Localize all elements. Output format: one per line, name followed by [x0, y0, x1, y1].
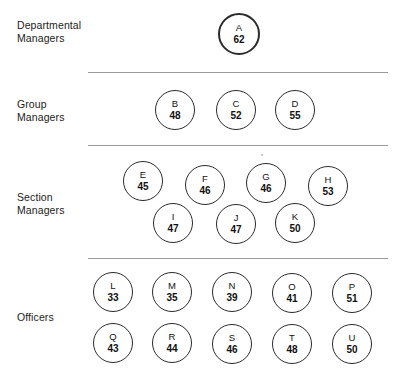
node-p-letter: P: [349, 282, 355, 292]
node-s-letter: S: [229, 333, 235, 343]
node-q-value: 43: [107, 344, 118, 354]
node-g[interactable]: G 46: [246, 163, 286, 203]
node-n-letter: N: [229, 281, 236, 291]
node-n-value: 39: [226, 293, 237, 303]
node-c-value: 52: [230, 111, 241, 121]
node-h[interactable]: H 53: [308, 166, 348, 206]
node-g-value: 46: [260, 184, 271, 194]
node-e[interactable]: E 45: [123, 161, 163, 201]
tier-label-group-managers: Group Managers: [17, 98, 65, 123]
node-l[interactable]: L 33: [93, 272, 133, 312]
node-t[interactable]: T 48: [272, 324, 312, 364]
node-q[interactable]: Q 43: [93, 323, 133, 363]
node-m-value: 35: [166, 293, 177, 303]
node-a[interactable]: A 62: [218, 13, 260, 55]
node-e-value: 45: [137, 182, 148, 192]
node-a-letter: A: [236, 23, 242, 33]
node-j-value: 47: [230, 225, 241, 235]
node-m[interactable]: M 35: [152, 272, 192, 312]
node-a-value: 62: [233, 35, 244, 45]
node-h-value: 53: [322, 187, 333, 197]
node-t-value: 48: [286, 345, 297, 355]
node-u-value: 50: [346, 345, 357, 355]
node-u[interactable]: U 50: [332, 324, 372, 364]
node-f[interactable]: F 46: [185, 165, 225, 205]
node-d[interactable]: D 55: [275, 90, 315, 130]
node-k-value: 50: [289, 224, 300, 234]
node-t-letter: T: [289, 333, 295, 343]
node-s[interactable]: S 46: [212, 324, 252, 364]
node-b-value: 48: [169, 111, 180, 121]
node-c-letter: C: [233, 99, 240, 109]
node-s-value: 46: [226, 345, 237, 355]
node-l-value: 33: [107, 293, 118, 303]
node-g-letter: G: [262, 172, 269, 182]
node-r[interactable]: R 44: [152, 323, 192, 363]
tier-label-section-managers: Section Managers: [17, 191, 65, 216]
node-b[interactable]: B 48: [155, 90, 195, 130]
node-n[interactable]: N 39: [212, 272, 252, 312]
node-u-letter: U: [349, 333, 356, 343]
node-f-letter: F: [202, 174, 208, 184]
node-i-letter: I: [172, 212, 175, 222]
node-o[interactable]: O 41: [272, 273, 312, 313]
node-l-letter: L: [110, 281, 115, 291]
org-hierarchy-diagram: Departmental Managers Group Managers Sec…: [0, 0, 396, 386]
node-j[interactable]: J 47: [216, 204, 256, 244]
tier-divider-1: [88, 72, 388, 73]
node-k-letter: K: [292, 212, 298, 222]
node-f-value: 46: [199, 186, 210, 196]
node-r-letter: R: [169, 332, 176, 342]
node-b-letter: B: [172, 99, 178, 109]
node-q-letter: Q: [109, 332, 116, 342]
speck-artifact: [261, 154, 263, 156]
node-c[interactable]: C 52: [216, 90, 256, 130]
tier-divider-3: [88, 258, 388, 259]
node-h-letter: H: [325, 175, 332, 185]
tier-label-officers: Officers: [17, 311, 54, 324]
node-j-letter: J: [234, 213, 239, 223]
node-d-value: 55: [289, 111, 300, 121]
node-m-letter: M: [168, 281, 176, 291]
node-p[interactable]: P 51: [332, 273, 372, 313]
node-i-value: 47: [167, 224, 178, 234]
tier-divider-2: [88, 145, 388, 146]
node-o-value: 41: [286, 294, 297, 304]
node-e-letter: E: [140, 170, 146, 180]
node-d-letter: D: [292, 99, 299, 109]
node-r-value: 44: [166, 344, 177, 354]
node-i[interactable]: I 47: [153, 203, 193, 243]
tier-label-departmental-managers: Departmental Managers: [17, 19, 81, 44]
node-p-value: 51: [346, 294, 357, 304]
node-k[interactable]: K 50: [275, 203, 315, 243]
node-o-letter: O: [288, 282, 295, 292]
